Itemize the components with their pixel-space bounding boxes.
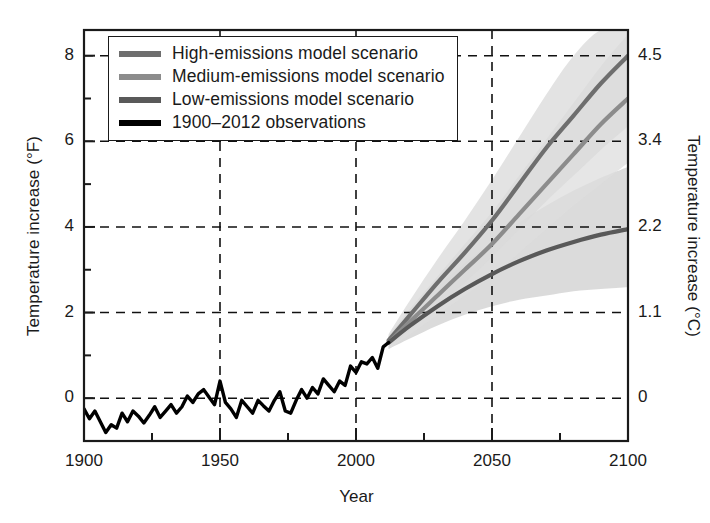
- legend-swatch-observations: [119, 120, 161, 126]
- legend-swatch-medium: [119, 74, 161, 80]
- y-tick-left-2: 4: [34, 216, 74, 236]
- legend-item-low: Low-emissions model scenario: [119, 88, 445, 111]
- legend-item-observations: 1900–2012 observations: [119, 111, 445, 134]
- legend-item-medium: Medium-emissions model scenario: [119, 65, 445, 88]
- y-tick-left-3: 6: [34, 130, 74, 150]
- y-tick-left-1: 2: [34, 302, 74, 322]
- x-tick-1: 1950: [185, 451, 255, 471]
- x-axis-title: Year: [84, 487, 629, 507]
- x-tick-4: 2100: [593, 451, 663, 471]
- y-tick-right-0: 0: [638, 387, 682, 407]
- y-tick-right-4: 4.5: [638, 45, 682, 65]
- x-tick-0: 1900: [49, 451, 119, 471]
- x-tick-3: 2050: [457, 451, 527, 471]
- legend-swatch-low: [119, 97, 161, 103]
- y-tick-left-0: 0: [34, 387, 74, 407]
- legend-item-high: High-emissions model scenario: [119, 42, 445, 65]
- y-axis-left-title: Temperature increase (°F): [24, 30, 48, 442]
- chart-legend: High-emissions model scenario Medium-emi…: [108, 36, 458, 141]
- legend-swatch-high: [119, 51, 161, 57]
- legend-label-low: Low-emissions model scenario: [172, 89, 414, 110]
- climate-projection-chart: Temperature increase (°F) Temperature in…: [0, 0, 710, 523]
- y-tick-right-2: 2.2: [638, 216, 682, 236]
- y-axis-right-title: Temperature increase (°C): [679, 30, 703, 442]
- y-tick-right-1: 1.1: [638, 302, 682, 322]
- y-tick-left-4: 8: [34, 45, 74, 65]
- x-tick-2: 2000: [321, 451, 391, 471]
- legend-label-observations: 1900–2012 observations: [172, 112, 366, 133]
- y-tick-right-3: 3.4: [638, 130, 682, 150]
- legend-label-medium: Medium-emissions model scenario: [172, 66, 445, 87]
- legend-label-high: High-emissions model scenario: [172, 43, 418, 64]
